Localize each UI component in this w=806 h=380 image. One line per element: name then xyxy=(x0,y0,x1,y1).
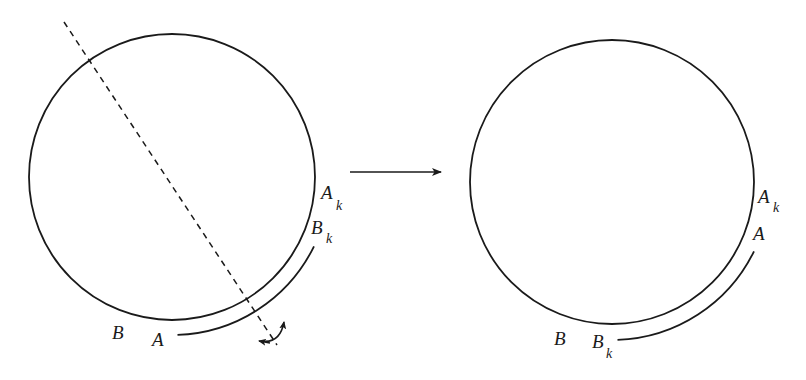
label-left-B-k: B xyxy=(311,217,323,238)
left-outer-arc xyxy=(178,246,315,335)
reflection-axis-dashed-line xyxy=(64,22,277,345)
label-left-A-k-subscript: k xyxy=(336,198,343,213)
rotation-arrow-icon xyxy=(259,322,284,343)
label-right-A-k-subscript: k xyxy=(773,200,780,215)
label-right-A: A xyxy=(751,223,765,244)
label-right-B: B xyxy=(554,328,566,349)
label-left-B-k-subscript: k xyxy=(326,231,333,246)
label-right-A-k: A xyxy=(756,186,770,207)
label-right-B-k-subscript: k xyxy=(606,346,613,361)
label-right-B-k: B xyxy=(592,331,604,352)
label-left-A: A xyxy=(150,329,164,350)
right-figure: A k A B B k xyxy=(470,40,780,361)
left-circle xyxy=(29,34,315,320)
label-left-A-k: A xyxy=(319,182,333,203)
diagram-canvas: A k B k B A A k A B B k xyxy=(0,0,806,380)
right-outer-arc xyxy=(618,251,755,340)
right-circle xyxy=(470,40,754,324)
left-figure: A k B k B A xyxy=(29,22,343,350)
label-left-B: B xyxy=(112,322,124,343)
